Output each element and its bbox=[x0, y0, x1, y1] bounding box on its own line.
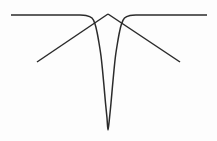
plot-background bbox=[0, 0, 217, 141]
figure-container bbox=[0, 0, 217, 141]
line-plot-svg bbox=[0, 0, 217, 141]
